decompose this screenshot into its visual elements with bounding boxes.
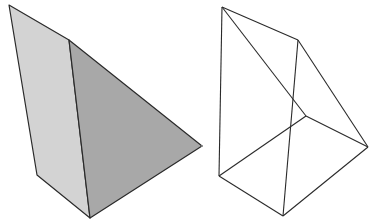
shaded-solid [9, 5, 202, 218]
edge [219, 176, 283, 216]
edge [298, 40, 368, 147]
edge [222, 7, 298, 40]
diagram-canvas [0, 0, 373, 222]
edge [219, 116, 306, 176]
edge [283, 147, 368, 216]
right-face [69, 40, 202, 218]
edge [283, 40, 298, 216]
stray-dot [201, 145, 203, 147]
edge [219, 7, 222, 176]
edge [306, 116, 368, 147]
wireframe-solid [219, 7, 368, 216]
